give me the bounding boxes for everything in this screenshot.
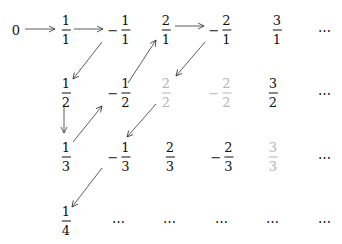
- numerator: 3: [268, 77, 278, 91]
- fraction-node: −11: [107, 14, 130, 47]
- denominator: 2: [161, 96, 171, 110]
- fraction: 31: [272, 14, 282, 47]
- fraction-bar: [222, 30, 231, 31]
- fraction-node: 12: [61, 77, 71, 110]
- fraction: 22: [161, 77, 171, 110]
- fraction: 12: [61, 77, 71, 110]
- denominator: 2: [61, 96, 71, 110]
- fraction-node: −13: [107, 141, 130, 174]
- fraction-node: 14: [61, 205, 71, 238]
- denominator: 3: [223, 160, 233, 174]
- ellipsis-text: ⋯: [163, 214, 177, 229]
- fraction-bar: [121, 93, 130, 94]
- fraction: 32: [268, 77, 278, 110]
- fraction: 13: [120, 141, 130, 174]
- numerator: 1: [120, 77, 130, 91]
- fraction-bar: [273, 30, 282, 31]
- denominator: 3: [268, 160, 278, 174]
- fraction-bar: [166, 157, 175, 158]
- fraction: 21: [221, 14, 231, 47]
- fraction: 23: [165, 141, 175, 174]
- denominator: 1: [61, 33, 71, 47]
- fraction-node: 32: [268, 77, 278, 110]
- numerator: 3: [268, 141, 278, 155]
- numerator: 2: [223, 141, 233, 155]
- fraction-node: 22: [161, 77, 171, 110]
- ellipsis-text: ⋯: [112, 214, 126, 229]
- ellipsis-text: ⋯: [318, 23, 332, 38]
- ellipsis: ⋯: [318, 23, 332, 38]
- fraction: 12: [120, 77, 130, 110]
- fraction: 14: [61, 205, 71, 238]
- denominator: 1: [120, 33, 130, 47]
- fraction-bar: [121, 157, 130, 158]
- minus-sign: −: [208, 86, 219, 101]
- fraction-node: −23: [210, 141, 233, 174]
- arrow: [73, 106, 102, 142]
- minus-sign: −: [107, 86, 118, 101]
- minus-sign: −: [107, 23, 118, 38]
- fraction-node: 13: [61, 141, 71, 174]
- fraction: 23: [223, 141, 233, 174]
- fraction-node: 31: [272, 14, 282, 47]
- arrow: [72, 168, 102, 207]
- fraction-bar: [121, 30, 130, 31]
- numerator: 2: [221, 14, 231, 28]
- fraction: 22: [221, 77, 231, 110]
- fraction: 33: [268, 141, 278, 174]
- denominator: 2: [268, 96, 278, 110]
- fraction-bar: [224, 157, 233, 158]
- fraction-bar: [222, 93, 231, 94]
- fraction-node: −21: [208, 14, 231, 47]
- fraction-node: −12: [107, 77, 130, 110]
- numerator: 1: [61, 205, 71, 219]
- arrow: [127, 104, 156, 137]
- fraction-node: 23: [165, 141, 175, 174]
- fraction: 11: [61, 14, 71, 47]
- denominator: 1: [272, 33, 282, 47]
- numerator: 1: [61, 77, 71, 91]
- fraction-bar: [62, 93, 71, 94]
- ellipsis: ⋯: [318, 86, 332, 101]
- ellipsis-text: ⋯: [318, 86, 332, 101]
- fraction: 13: [61, 141, 71, 174]
- denominator: 2: [120, 96, 130, 110]
- denominator: 1: [161, 33, 171, 47]
- fraction-bar: [269, 93, 278, 94]
- numerator: 1: [61, 141, 71, 155]
- ellipsis-text: ⋯: [266, 214, 280, 229]
- fraction: 21: [161, 14, 171, 47]
- ellipsis: ⋯: [318, 214, 332, 229]
- denominator: 3: [120, 160, 130, 174]
- fraction-bar: [62, 157, 71, 158]
- denominator: 1: [221, 33, 231, 47]
- ellipsis: ⋯: [215, 214, 229, 229]
- fraction-node: −22: [208, 77, 231, 110]
- fraction-bar: [162, 30, 171, 31]
- fraction-node: 11: [61, 14, 71, 47]
- ellipsis-text: ⋯: [318, 214, 332, 229]
- fraction-bar: [62, 30, 71, 31]
- ellipsis-text: ⋯: [215, 214, 229, 229]
- fraction-bar: [62, 221, 71, 222]
- ellipsis: ⋯: [266, 214, 280, 229]
- denominator: 4: [61, 224, 71, 238]
- numerator: 1: [61, 14, 71, 28]
- denominator: 3: [61, 160, 71, 174]
- numerator: 2: [161, 14, 171, 28]
- ellipsis: ⋯: [112, 214, 126, 229]
- minus-sign: −: [208, 23, 219, 38]
- arrow: [128, 40, 156, 83]
- fraction-bar: [162, 93, 171, 94]
- arrow: [73, 42, 102, 79]
- fraction: 11: [120, 14, 130, 47]
- numerator: 3: [272, 14, 282, 28]
- minus-sign: −: [210, 150, 221, 165]
- ellipsis: ⋯: [318, 150, 332, 165]
- fraction-node: 21: [161, 14, 171, 47]
- denominator: 2: [221, 96, 231, 110]
- numerator: 2: [161, 77, 171, 91]
- zero-node: 0: [12, 23, 20, 38]
- fraction-node: 33: [268, 141, 278, 174]
- denominator: 3: [165, 160, 175, 174]
